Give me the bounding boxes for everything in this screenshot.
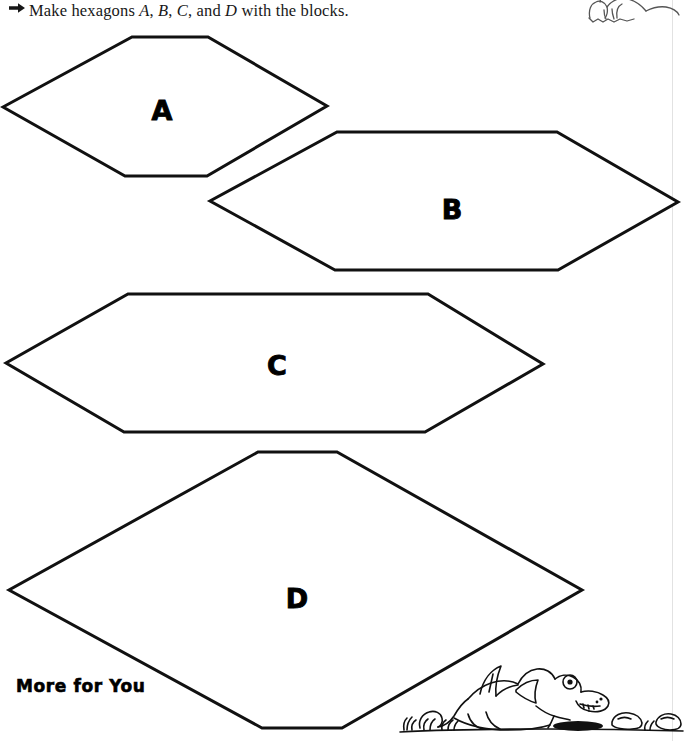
cartoon-dinosaur-partial-icon	[560, 0, 680, 36]
hexagon-b-label: B	[442, 196, 463, 223]
hexagon-d-label: D	[286, 585, 308, 612]
hexagon-shapes-layer	[0, 0, 685, 741]
footer-section-label: More for You	[16, 676, 146, 696]
worksheet-page: Make hexagons A, B, C, and D with the bl…	[0, 0, 685, 741]
hexagon-c-label: C	[267, 352, 287, 379]
cartoon-dragon-icon	[398, 646, 685, 741]
hexagon-a-label: A	[152, 97, 173, 124]
